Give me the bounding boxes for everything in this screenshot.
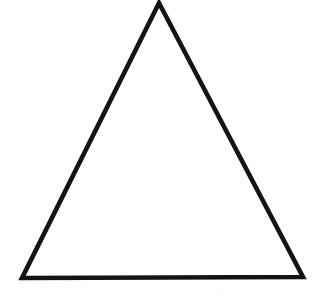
triangle-diagram-svg [0, 0, 325, 308]
canvas-background [0, 0, 325, 308]
figure-canvas [0, 0, 325, 308]
